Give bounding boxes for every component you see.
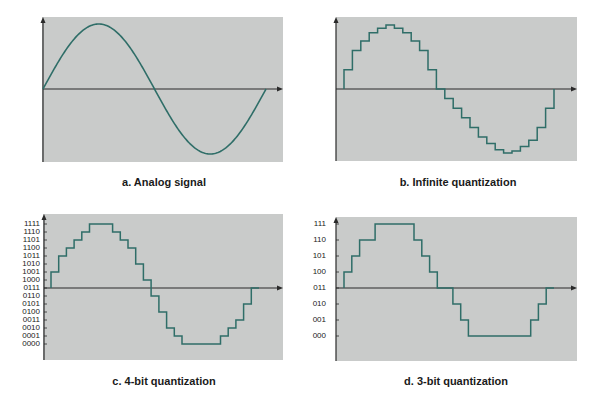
caption-4bit-quantization: c. 4-bit quantization [112,375,215,387]
caption-3bit-quantization: d. 3-bit quantization [404,375,508,387]
level-label-0000: 0000 [6,340,40,348]
panel-analog-signal: a. Analog signal [0,0,296,200]
level-label-001: 001 [296,316,326,324]
level-label-100: 100 [296,268,326,276]
analog-signal-plot [0,0,296,200]
3bit-quantization-plot [296,200,593,400]
level-label-010: 010 [296,300,326,308]
plot-background [43,214,283,360]
plot-background [336,217,577,361]
4bit-quantization-plot [0,200,296,400]
caption-analog-signal: a. Analog signal [122,176,206,188]
level-label-110: 110 [296,236,326,244]
level-label-101: 101 [296,252,326,260]
level-label-111: 111 [296,220,326,228]
caption-infinite-quantization: b. Infinite quantization [400,176,517,188]
panel-3bit-quantization: 111110101100011010001000 d. 3-bit quanti… [296,200,593,400]
level-label-000: 000 [296,332,326,340]
panel-infinite-quantization: b. Infinite quantization [296,0,593,200]
panel-4bit-quantization: 1111111011011100101110101001100001110110… [0,200,296,400]
level-label-011: 011 [296,284,326,292]
infinite-quantization-plot [296,0,593,200]
